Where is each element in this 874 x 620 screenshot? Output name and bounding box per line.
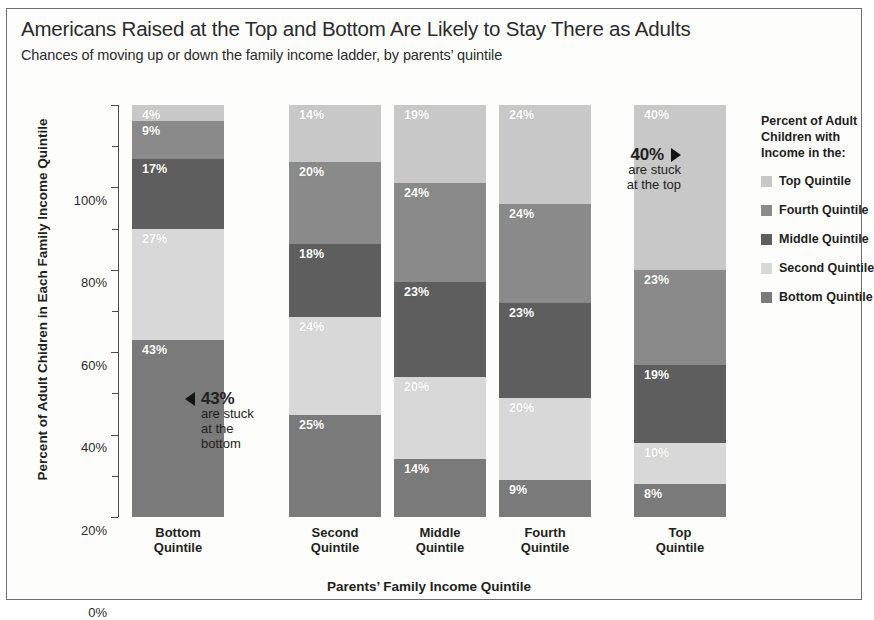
annotation-line1: are stuck: [563, 162, 681, 177]
segment-value-label: 14%: [404, 462, 429, 476]
x-axis-category-line: Quintile: [394, 540, 486, 555]
legend-swatch: [761, 292, 772, 303]
segment-middle-quintile[interactable]: 17%: [132, 159, 224, 229]
segment-value-label: 24%: [509, 207, 534, 221]
segment-middle-quintile[interactable]: 23%: [394, 282, 486, 377]
legend-label: Top Quintile: [779, 174, 851, 188]
segment-value-label: 43%: [142, 343, 167, 357]
segment-bottom-quintile[interactable]: 25%: [289, 415, 381, 517]
annotation-line3: bottom: [201, 436, 281, 451]
segment-top-quintile[interactable]: 14%: [289, 105, 381, 162]
segment-top-quintile[interactable]: 19%: [394, 105, 486, 183]
x-axis-category-line: Fourth: [499, 525, 591, 540]
legend-swatch: [761, 263, 772, 274]
chart-title: Americans Raised at the Top and Bottom A…: [21, 17, 691, 41]
annotation-line2: at the: [201, 421, 281, 436]
segment-value-label: 8%: [644, 487, 662, 501]
legend-item-middle-quintile[interactable]: Middle Quintile: [761, 232, 865, 246]
segment-middle-quintile[interactable]: 23%: [499, 303, 591, 398]
segment-fourth-quintile[interactable]: 23%: [634, 270, 726, 365]
segment-top-quintile[interactable]: 4%: [132, 105, 224, 121]
segment-fourth-quintile[interactable]: 24%: [499, 204, 591, 303]
legend-title: Percent of AdultChildren withIncome in t…: [761, 113, 865, 161]
segment-fourth-quintile[interactable]: 9%: [132, 121, 224, 158]
segment-value-label: 24%: [299, 320, 324, 334]
x-axis-category-line: Bottom: [132, 525, 224, 540]
segment-bottom-quintile[interactable]: 9%: [499, 480, 591, 517]
segment-value-label: 20%: [299, 165, 324, 179]
y-axis-tick: [111, 352, 118, 353]
bar-bottom-quintile[interactable]: 4%9%17%27%43%: [132, 105, 224, 517]
x-axis-category-label: MiddleQuintile: [394, 525, 486, 555]
segment-value-label: 4%: [142, 108, 160, 122]
annotation-value: 43%: [201, 391, 234, 406]
legend-item-bottom-quintile[interactable]: Bottom Quintile: [761, 290, 865, 304]
legend: Percent of AdultChildren withIncome in t…: [761, 113, 865, 319]
segment-value-label: 24%: [509, 108, 534, 122]
y-axis-tick: [111, 435, 118, 436]
segment-value-label: 18%: [299, 247, 324, 261]
y-axis-tick-label: 20%: [59, 523, 107, 538]
legend-item-top-quintile[interactable]: Top Quintile: [761, 174, 865, 188]
legend-swatch: [761, 176, 772, 187]
x-axis-category-label: TopQuintile: [634, 525, 726, 555]
legend-item-fourth-quintile[interactable]: Fourth Quintile: [761, 203, 865, 217]
segment-fourth-quintile[interactable]: 20%: [289, 162, 381, 244]
x-axis-category-line: Second: [289, 525, 381, 540]
segment-bottom-quintile[interactable]: 14%: [394, 459, 486, 517]
segment-value-label: 19%: [644, 368, 669, 382]
bar-second-quintile[interactable]: 14%20%18%24%25%: [289, 105, 381, 517]
segment-value-label: 23%: [404, 285, 429, 299]
segment-second-quintile[interactable]: 10%: [634, 443, 726, 484]
y-axis-title: Percent of Adult Chidren in Each Family …: [35, 104, 50, 496]
chart-subtitle: Chances of moving up or down the family …: [21, 47, 502, 63]
y-axis-tick: [111, 270, 118, 271]
y-axis-tick: [112, 229, 118, 230]
y-axis-tick: [112, 476, 118, 477]
segment-second-quintile[interactable]: 27%: [132, 229, 224, 340]
segment-value-label: 14%: [299, 108, 324, 122]
segment-value-label: 9%: [142, 124, 160, 138]
x-axis-category-label: SecondQuintile: [289, 525, 381, 555]
legend-label: Fourth Quintile: [779, 203, 869, 217]
annotation-stuck-at-top: 40% are stuck at the top: [563, 147, 681, 192]
segment-second-quintile[interactable]: 24%: [289, 317, 381, 415]
segment-middle-quintile[interactable]: 18%: [289, 244, 381, 317]
x-axis-category-line: Quintile: [289, 540, 381, 555]
chart-frame: Americans Raised at the Top and Bottom A…: [6, 8, 862, 600]
annotation-stuck-at-bottom: 43% are stuck at the bottom: [185, 391, 281, 451]
y-axis-tick: [111, 187, 118, 188]
x-axis-category-line: Quintile: [132, 540, 224, 555]
bar-middle-quintile[interactable]: 19%24%23%20%14%: [394, 105, 486, 517]
segment-second-quintile[interactable]: 20%: [499, 398, 591, 480]
legend-swatch: [761, 234, 772, 245]
segment-value-label: 10%: [644, 446, 669, 460]
segment-value-label: 25%: [299, 418, 324, 432]
segment-value-label: 27%: [142, 232, 167, 246]
segment-value-label: 19%: [404, 108, 429, 122]
legend-item-second-quintile[interactable]: Second Quintile: [761, 261, 865, 275]
segment-value-label: 23%: [644, 273, 669, 287]
segment-value-label: 9%: [509, 483, 527, 497]
arrow-left-icon: [185, 392, 195, 406]
legend-label: Middle Quintile: [779, 232, 869, 246]
annotation-value: 40%: [631, 147, 664, 162]
segment-second-quintile[interactable]: 20%: [394, 377, 486, 459]
legend-label: Second Quintile: [779, 261, 874, 275]
y-axis-labels: 0%20%40%60%80%100%: [51, 105, 111, 517]
segment-middle-quintile[interactable]: 19%: [634, 365, 726, 443]
arrow-right-icon: [671, 148, 681, 162]
legend-title-line: Income in the:: [761, 145, 865, 161]
legend-title-line: Children with: [761, 129, 865, 145]
legend-swatch: [761, 205, 772, 216]
x-axis-category-label: FourthQuintile: [499, 525, 591, 555]
segment-value-label: 24%: [404, 186, 429, 200]
y-axis-tick-label: 80%: [59, 275, 107, 290]
segment-fourth-quintile[interactable]: 24%: [394, 183, 486, 282]
y-axis-tick: [111, 517, 118, 518]
segment-value-label: 17%: [142, 162, 167, 176]
x-axis-category-line: Top: [634, 525, 726, 540]
y-axis-tick-label: 40%: [59, 440, 107, 455]
segment-bottom-quintile[interactable]: 8%: [634, 484, 726, 517]
annotation-line2: at the top: [563, 177, 681, 192]
